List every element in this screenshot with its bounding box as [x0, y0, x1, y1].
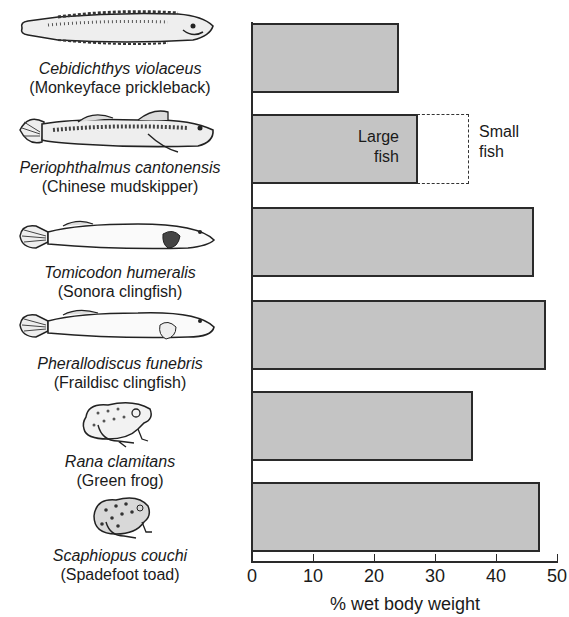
scientific-name: Scaphiopus couchi: [0, 546, 240, 565]
x-tick-label: 50: [547, 566, 567, 587]
clingfish-icon: [18, 218, 218, 254]
common-name: (Fraildisc clingfish): [0, 373, 240, 392]
toad-icon: [88, 492, 158, 542]
species-label: Scaphiopus couchi (Spadefoot toad): [0, 546, 240, 584]
mudskipper-icon: [18, 108, 218, 158]
common-name: (Chinese mudskipper): [0, 177, 240, 196]
bar-chart: Cebidichthys violaceus (Monkeyface prick…: [0, 0, 569, 617]
scientific-name: Tomicodon humeralis: [0, 263, 240, 282]
elongated-fish-icon: [18, 8, 218, 48]
x-tick-label: 20: [364, 566, 384, 587]
large-fish-label: Large fish: [353, 127, 399, 167]
small-fish-label-line2: fish: [479, 142, 519, 162]
species-label: Pherallodiscus funebris (Fraildisc cling…: [0, 354, 240, 392]
large-fish-label-line1: Large: [353, 127, 399, 147]
x-tick-label: 40: [486, 566, 506, 587]
small-fish-label-line1: Small: [479, 122, 519, 142]
species-label: Rana clamitans (Green frog): [0, 452, 240, 490]
x-tick: [557, 554, 559, 562]
x-axis-label: % wet body weight: [330, 594, 480, 615]
common-name: (Spadefoot toad): [0, 565, 240, 584]
scientific-name: Periophthalmus cantonensis: [0, 158, 240, 177]
common-name: (Sonora clingfish): [0, 282, 240, 301]
bar: [251, 23, 399, 93]
scientific-name: Cebidichthys violaceus: [0, 59, 240, 78]
species-label: Periophthalmus cantonensis (Chinese muds…: [0, 158, 240, 196]
common-name: (Green frog): [0, 471, 240, 490]
small-fish-dashed-bar: [417, 114, 469, 184]
frog-icon: [78, 395, 158, 450]
species-label: Cebidichthys violaceus (Monkeyface prick…: [0, 59, 240, 97]
common-name: (Monkeyface prickleback): [0, 78, 240, 97]
x-tick-label: 10: [303, 566, 323, 587]
large-fish-label-line2: fish: [353, 147, 399, 167]
scientific-name: Rana clamitans: [0, 452, 240, 471]
bar: [251, 391, 473, 461]
x-tick: [496, 554, 498, 562]
scientific-name: Pherallodiscus funebris: [0, 354, 240, 373]
x-tick: [252, 554, 254, 562]
clingfish-icon: [18, 305, 218, 345]
small-fish-label: Small fish: [479, 122, 519, 162]
x-axis: [251, 561, 558, 563]
bar: [251, 207, 534, 277]
x-tick: [435, 554, 437, 562]
x-tick-label: 30: [425, 566, 445, 587]
x-tick: [374, 554, 376, 562]
bar: [251, 300, 546, 370]
x-tick-label: 0: [247, 566, 257, 587]
bar: [251, 482, 540, 552]
species-label: Tomicodon humeralis (Sonora clingfish): [0, 263, 240, 301]
x-tick: [313, 554, 315, 562]
